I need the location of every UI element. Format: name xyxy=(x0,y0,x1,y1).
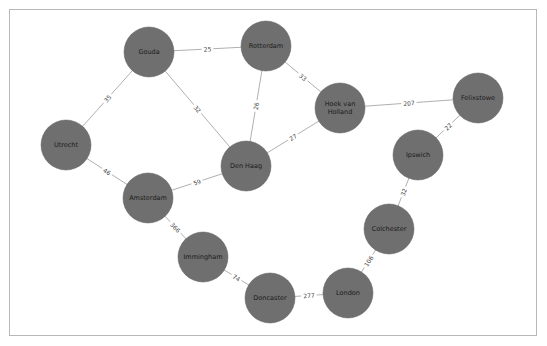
node-label: Gouda xyxy=(138,48,159,56)
edge-weight-label: 25 xyxy=(202,45,214,54)
node-denhaag[interactable]: Den Haag xyxy=(221,141,271,191)
edge-weight-label: 207 xyxy=(401,98,417,107)
edge-weight-label: 27 xyxy=(286,131,300,144)
node-felixstowe[interactable]: Felixstowe xyxy=(453,73,503,123)
edge-weight-label: 26 xyxy=(251,100,261,113)
node-immingham[interactable]: Immingham xyxy=(178,232,228,282)
node-label: London xyxy=(336,289,360,297)
edge-weight-label: 59 xyxy=(190,176,204,187)
svg-text:207: 207 xyxy=(403,99,415,107)
node-hoek[interactable]: Hoek vanHolland xyxy=(315,83,365,133)
node-label: Felixstowe xyxy=(461,94,495,102)
node-doncaster[interactable]: Doncaster xyxy=(245,273,295,323)
svg-text:25: 25 xyxy=(204,45,212,52)
node-label: Colchester xyxy=(372,225,407,233)
network-graph: 2535322633272072232106277743665946 Gouda… xyxy=(0,0,547,346)
svg-text:277: 277 xyxy=(303,292,315,300)
node-amsterdam[interactable]: Amsterdam xyxy=(123,173,173,223)
node-label: Amsterdam xyxy=(129,194,167,202)
node-ipswich[interactable]: Ipswich xyxy=(393,130,443,180)
node-label: Den Haag xyxy=(230,162,262,170)
node-label: Utrecht xyxy=(54,141,79,149)
edge-weight-label: 46 xyxy=(100,165,114,178)
svg-text:26: 26 xyxy=(252,101,260,110)
node-rotterdam[interactable]: Rotterdam xyxy=(241,21,291,71)
edge-weight-label: 74 xyxy=(229,271,243,284)
node-label: Doncaster xyxy=(253,294,287,302)
edge-weight-label: 106 xyxy=(361,252,376,269)
node-london[interactable]: London xyxy=(323,268,373,318)
node-utrecht[interactable]: Utrecht xyxy=(41,120,91,170)
edge-weight-label: 277 xyxy=(301,291,317,300)
node-label: Ipswich xyxy=(406,151,430,159)
node-colchester[interactable]: Colchester xyxy=(364,204,414,254)
node-label: Holland xyxy=(328,108,353,116)
node-gouda[interactable]: Gouda xyxy=(124,27,174,77)
node-label: Rotterdam xyxy=(249,42,283,50)
edge-weight-label: 32 xyxy=(398,185,410,199)
node-label: Immingham xyxy=(183,253,222,261)
